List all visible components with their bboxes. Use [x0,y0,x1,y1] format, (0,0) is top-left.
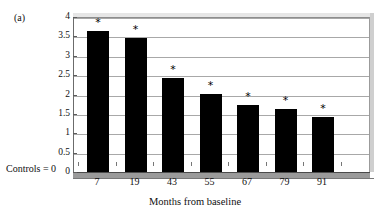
bar-rect[interactable] [87,31,109,172]
x-axis-tick-mark [303,162,304,166]
x-axis-tick-mark [78,162,79,166]
x-axis-tick-mark [228,162,229,166]
bar-55[interactable]: * [200,17,222,172]
y-axis-tick-label: 2.5 [44,70,70,80]
y-axis-tick-mark [73,153,77,154]
bar-rect[interactable] [162,78,184,172]
plot-area: ******* [73,17,370,172]
y-axis-tick-mark [73,56,77,57]
y-axis-tick-label: 0.5 [44,148,70,158]
x-axis-tick-label: 19 [115,176,155,187]
x-axis-tick-label: 67 [227,176,267,187]
bar-rect[interactable] [312,117,334,172]
panel-label: (a) [14,12,25,23]
x-axis-tick-mark [341,162,342,166]
x-axis-tick-mark [116,162,117,166]
x-axis-tick-label: 7 [77,176,117,187]
y-axis-tick-label: 1.5 [44,109,70,119]
x-axis-tick-label: 79 [265,176,305,187]
y-axis-tick-mark [73,95,77,96]
y-axis-tick-mark [73,114,77,115]
y-axis-tick-mark [73,133,77,134]
plot-right-face [370,13,374,172]
y-axis-tick-mark [73,17,77,18]
y-axis-tick-mark [73,36,77,37]
bar-rect[interactable] [237,105,259,172]
y-axis-tick-mark [73,172,77,173]
y-axis-tick-label: 3.5 [44,31,70,41]
significance-asterisk: * [162,64,184,75]
x-axis-tick-mark [266,162,267,166]
y-axis-tick-mark [73,75,77,76]
bar-67[interactable]: * [237,17,259,172]
bar-79[interactable]: * [275,17,297,172]
y-axis-tick-label: 1 [44,128,70,138]
x-axis-tick-mark [191,162,192,166]
significance-asterisk: * [87,17,109,28]
significance-asterisk: * [275,95,297,106]
y-axis-tick-label: 4 [44,12,70,22]
plot-region: ******* [73,17,370,172]
significance-asterisk: * [312,103,334,114]
x-axis-tick-label: 55 [190,176,230,187]
y-axis-tick-label: 0 [44,167,70,177]
bar-91[interactable]: * [312,17,334,172]
x-axis-tick-mark [153,162,154,166]
significance-asterisk: * [125,24,147,35]
x-axis-tick-label: 43 [152,176,192,187]
y-axis-tick-label: 3 [44,51,70,61]
y-axis-tick-labels: 00.511.522.533.54 [40,17,70,172]
bar-rect[interactable] [275,109,297,172]
bar-rect[interactable] [125,38,147,172]
bar-7[interactable]: * [87,17,109,172]
x-axis-title: Months from baseline [0,196,390,207]
bar-43[interactable]: * [162,17,184,172]
y-axis-tick-label: 2 [44,90,70,100]
significance-asterisk: * [237,91,259,102]
significance-asterisk: * [200,80,222,91]
figure-panel-a: (a) % Δ Total HIP BMC over controls Cont… [0,0,390,221]
bar-19[interactable]: * [125,17,147,172]
x-axis-tick-label: 91 [302,176,342,187]
bar-rect[interactable] [200,94,222,172]
